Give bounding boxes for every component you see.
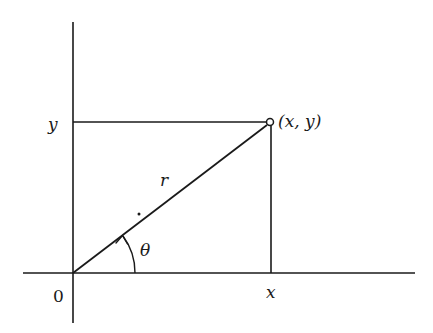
radius-label: r [160,170,169,190]
radius-line [73,125,267,273]
marker-dot [138,213,141,216]
origin-label: 0 [53,286,64,306]
polar-coordinates-diagram: (x, y) y x 0 r θ [0,0,433,333]
point-label: (x, y) [278,111,321,131]
x-tick-label: x [266,282,276,302]
angle-label: θ [140,240,150,260]
point-marker [267,119,274,126]
angle-arc [123,236,135,273]
y-tick-label: y [47,114,58,134]
